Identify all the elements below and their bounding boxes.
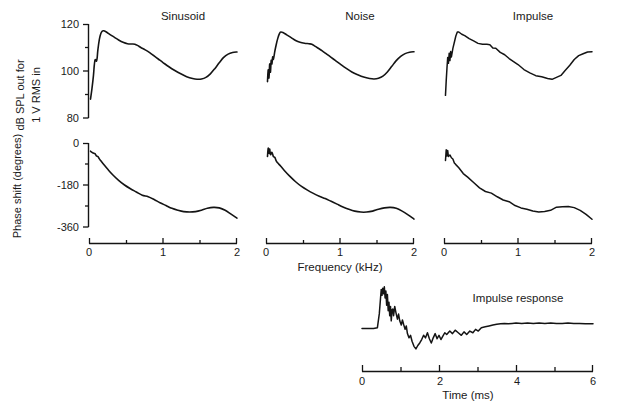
time-xtick-4: 4: [514, 375, 520, 387]
magnitude-axis-label-line1: dB SPL out for: [14, 59, 26, 130]
phase-ytick-180: -180: [57, 179, 79, 191]
frequency-x-axis-impulse: 0 1 2: [441, 238, 595, 258]
magnitude-panel-impulse: [445, 32, 592, 95]
magnitude-y-axis: 120 100 80: [61, 18, 89, 124]
magnitude-ytick-120: 120: [61, 18, 79, 30]
time-xtick-6: 6: [590, 375, 596, 387]
panel-title-sinusoid: Sinusoid: [161, 10, 205, 22]
freq-xtick-1-col1: 1: [160, 246, 166, 258]
magnitude-panel-noise: [267, 32, 414, 82]
time-xtick-0: 0: [359, 375, 365, 387]
figure-root: dB SPL out for 1 V RMS in Phase shift (d…: [0, 0, 619, 418]
freq-xtick-1-col3: 1: [515, 246, 521, 258]
phase-axis-label-text: Phase shift (degrees): [11, 134, 23, 239]
freq-xtick-2-col2: 2: [411, 246, 417, 258]
magnitude-ytick-100: 100: [61, 65, 79, 77]
freq-xtick-0-col2: 0: [263, 246, 269, 258]
magnitude-axis-label: dB SPL out for 1 V RMS in: [14, 59, 42, 130]
freq-xtick-2-col1: 2: [234, 246, 240, 258]
panel-title-noise: Noise: [345, 10, 374, 22]
panel-title-impulse: Impulse: [513, 10, 553, 22]
freq-xtick-1-col2: 1: [337, 246, 343, 258]
scientific-figure: dB SPL out for 1 V RMS in Phase shift (d…: [0, 0, 619, 418]
magnitude-ytick-80: 80: [67, 112, 79, 124]
magnitude-axis-label-line2: 1 V RMS in: [30, 67, 42, 123]
phase-ytick-0: 0: [73, 137, 79, 149]
frequency-x-axis-sinusoid: 0 1 2: [86, 238, 240, 258]
magnitude-panel-sinusoid: [90, 31, 237, 100]
time-x-axis: 0 2 4 6: [359, 365, 596, 387]
freq-xtick-0-col1: 0: [86, 246, 92, 258]
impulse-response-title: Impulse response: [473, 292, 564, 304]
phase-panel-sinusoid: [90, 151, 237, 218]
phase-panel-noise: [267, 148, 414, 219]
time-axis-title: Time (ms): [442, 389, 493, 401]
frequency-x-axis-noise: 0 1 2: [263, 238, 417, 258]
freq-xtick-0-col3: 0: [441, 246, 447, 258]
phase-panel-impulse: [445, 150, 592, 219]
phase-ytick-360: -360: [57, 221, 79, 233]
freq-xtick-2-col3: 2: [589, 246, 595, 258]
frequency-axis-title: Frequency (kHz): [298, 261, 383, 273]
phase-axis-label: Phase shift (degrees): [11, 134, 23, 239]
time-xtick-2: 2: [437, 375, 443, 387]
phase-y-axis: 0 -180 -360: [57, 137, 89, 233]
